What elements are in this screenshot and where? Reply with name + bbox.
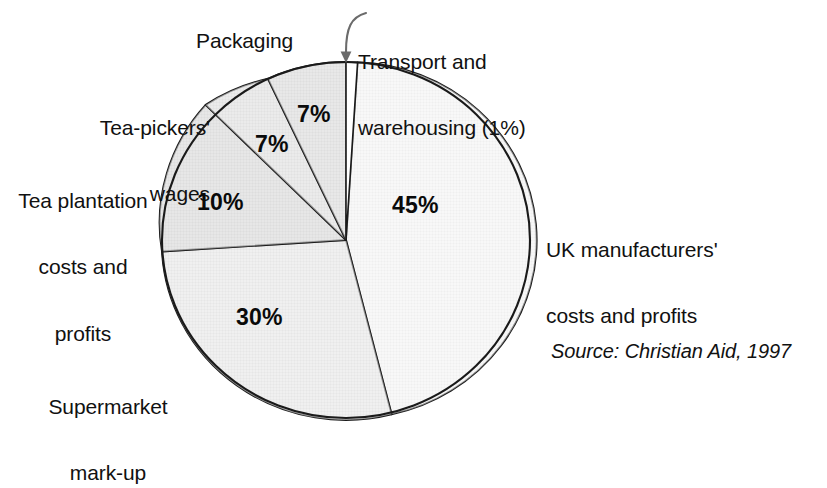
- slice-label-uk-manufacturers-line1: UK manufacturers': [546, 239, 718, 261]
- slice-label-supermarket-line2: mark-up: [8, 462, 208, 484]
- slice-label-tea-plantation-line3: profits: [0, 323, 166, 345]
- slice-value-tea-plantation: 10%: [197, 189, 244, 216]
- slice-label-tea-plantation-line1: Tea plantation: [0, 190, 166, 212]
- slice-label-tea-plantation-line2: costs and: [0, 256, 166, 278]
- slice-label-transport-line1: Transport and: [358, 51, 526, 73]
- slice-label-transport-line2: warehousing (1%): [358, 117, 526, 139]
- slice-label-supermarket: Supermarket mark-up: [8, 351, 208, 488]
- slice-label-transport-warehousing: Transport and warehousing (1%): [358, 6, 526, 184]
- slice-value-tea-pickers-wages: 7%: [255, 131, 289, 158]
- slice-value-packaging: 7%: [297, 101, 331, 128]
- source-note: Source: Christian Aid, 1997: [551, 341, 791, 362]
- slice-label-supermarket-line1: Supermarket: [8, 396, 208, 418]
- slice-label-tea-pickers-line1: Tea-pickers': [16, 117, 210, 139]
- slice-value-supermarket: 30%: [236, 304, 283, 331]
- slice-label-packaging: Packaging: [196, 30, 293, 52]
- slice-value-uk-manufacturers: 45%: [392, 192, 439, 219]
- slice-label-uk-manufacturers-line2: costs and profits: [546, 305, 718, 327]
